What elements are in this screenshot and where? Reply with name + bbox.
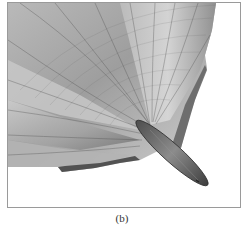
figure-panel: (b): [0, 0, 244, 229]
panel-caption: (b): [0, 211, 244, 225]
surface-render-image: [0, 0, 244, 229]
